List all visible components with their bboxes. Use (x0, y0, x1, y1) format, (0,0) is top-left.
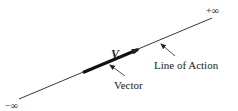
vector-symbol: V (111, 47, 120, 61)
line-of-action-pointer (161, 44, 175, 56)
minus-infinity-label: −∞ (5, 100, 18, 111)
plus-infinity-label: +∞ (206, 5, 219, 16)
line-of-action-caption: Line of Action (154, 59, 219, 71)
vector-caption: Vector (114, 79, 143, 91)
vector-pointer (110, 65, 125, 76)
line-of-action-diagram: V +∞ −∞ Vector Line of Action (0, 0, 238, 111)
